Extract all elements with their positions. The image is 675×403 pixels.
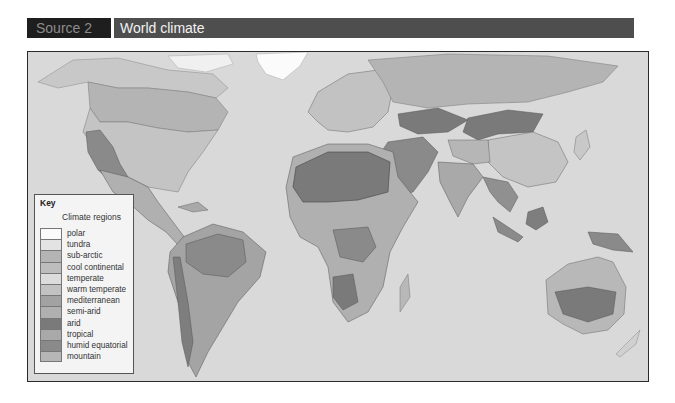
legend-swatch xyxy=(40,239,62,250)
legend-swatch xyxy=(40,329,62,340)
legend-item: tropical xyxy=(40,329,128,340)
legend-subtitle: Climate regions xyxy=(62,212,121,222)
legend-item: arid xyxy=(40,318,128,329)
legend-swatch xyxy=(40,318,62,329)
legend-label: temperate xyxy=(67,274,104,283)
legend-swatch xyxy=(40,306,62,317)
legend-label: warm temperate xyxy=(67,285,126,294)
legend-swatch xyxy=(40,250,62,261)
map-title: World climate xyxy=(114,18,634,38)
legend-item: humid equatorial xyxy=(40,340,128,351)
legend-label: cool continental xyxy=(67,263,124,272)
map-legend: Key Climate regions polartundrasub-arcti… xyxy=(34,194,134,374)
legend-item: temperate xyxy=(40,273,128,284)
legend-swatch xyxy=(40,284,62,295)
legend-item: warm temperate xyxy=(40,284,128,295)
legend-item: mediterranean xyxy=(40,295,128,306)
legend-swatch xyxy=(40,351,62,362)
legend-item: cool continental xyxy=(40,262,128,273)
legend-swatch xyxy=(40,273,62,284)
legend-label: mediterranean xyxy=(67,296,120,305)
legend-label: sub-arctic xyxy=(67,251,103,260)
legend-label: polar xyxy=(67,229,85,238)
legend-label: tundra xyxy=(67,240,90,249)
legend-label: semi-arid xyxy=(67,307,101,316)
legend-item: mountain xyxy=(40,351,128,362)
legend-label: arid xyxy=(67,319,81,328)
legend-swatch xyxy=(40,340,62,351)
legend-items: polartundrasub-arcticcool continentaltem… xyxy=(40,228,128,362)
legend-item: polar xyxy=(40,228,128,239)
legend-item: sub-arctic xyxy=(40,250,128,261)
legend-item: tundra xyxy=(40,239,128,250)
legend-title: Key xyxy=(40,198,56,208)
legend-item: semi-arid xyxy=(40,306,128,317)
source-label: Source 2 xyxy=(27,18,111,38)
legend-swatch xyxy=(40,295,62,306)
world-climate-map: Key Climate regions polartundrasub-arcti… xyxy=(27,51,649,382)
legend-swatch xyxy=(40,228,62,239)
legend-label: mountain xyxy=(67,352,101,361)
source-header: Source 2 World climate xyxy=(27,18,634,38)
legend-swatch xyxy=(40,262,62,273)
legend-label: humid equatorial xyxy=(67,341,128,350)
legend-label: tropical xyxy=(67,330,93,339)
